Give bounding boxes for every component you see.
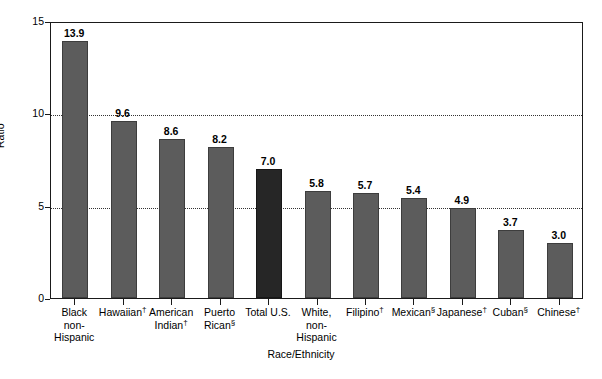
plot-area (50, 22, 583, 299)
bar-value-label: 4.9 (432, 194, 492, 206)
bar (450, 208, 476, 298)
x-tick-label-line: Hispanic (38, 331, 110, 344)
x-tick-mark (268, 299, 269, 305)
bar (305, 191, 331, 298)
x-tick-mark (317, 299, 318, 305)
footnote-marker: † (576, 305, 580, 314)
x-axis-title: Race/Ethnicity (0, 348, 602, 360)
bar (353, 193, 379, 298)
x-tick-label-line: non- (281, 319, 353, 332)
x-tick-mark (123, 299, 124, 305)
x-tick-mark (413, 299, 414, 305)
y-tick-label: 15 (2, 16, 44, 27)
bar (159, 139, 185, 298)
bar (498, 230, 524, 298)
bar (62, 41, 88, 298)
y-tick-mark (45, 299, 50, 300)
x-tick-label-line: Rican§ (184, 319, 256, 332)
x-tick-mark (510, 299, 511, 305)
bar-value-label: 3.7 (480, 216, 540, 228)
x-tick-mark (559, 299, 560, 305)
y-axis-title: Ratio (0, 123, 6, 148)
bar-value-label: 8.2 (190, 133, 250, 145)
bar (111, 121, 137, 298)
y-tick-label: 5 (2, 201, 44, 212)
x-tick-label: Chinese† (523, 306, 595, 319)
x-tick-mark (462, 299, 463, 305)
bar-value-label: 3.0 (529, 229, 589, 241)
y-tick-label: 0 (2, 293, 44, 304)
bar (208, 147, 234, 298)
bar (547, 243, 573, 298)
x-tick-mark (171, 299, 172, 305)
y-tick-label: 10 (2, 108, 44, 119)
x-tick-label-line: non- (38, 319, 110, 332)
bar-value-label: 7.0 (238, 155, 298, 167)
x-tick-mark (220, 299, 221, 305)
x-tick-mark (74, 299, 75, 305)
bar-chart-figure: Ratio 051015 13.99.68.68.27.05.85.75.44.… (0, 0, 602, 379)
x-tick-label-line: Chinese† (523, 306, 595, 319)
bar (401, 198, 427, 298)
bar-value-label: 13.9 (44, 27, 104, 39)
x-tick-mark (365, 299, 366, 305)
x-tick-label-line: Hispanic (281, 331, 353, 344)
bar (256, 169, 282, 298)
bar-value-label: 9.6 (93, 107, 153, 119)
